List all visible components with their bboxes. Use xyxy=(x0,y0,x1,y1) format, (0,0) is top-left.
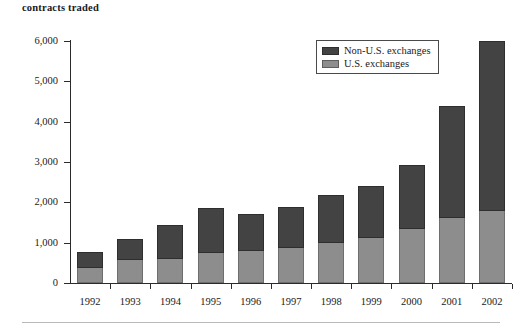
chart-legend: Non-U.S. exchanges U.S. exchanges xyxy=(316,40,439,74)
bar-segment-us-exchanges xyxy=(198,253,224,283)
y-axis-tick-label: 6,000 xyxy=(2,36,58,46)
x-axis-tick-label-1996: 1996 xyxy=(228,296,274,307)
bar-stack-1998 xyxy=(318,195,344,283)
x-axis-tick-label-1995: 1995 xyxy=(188,296,234,307)
x-axis-tick-label-2001: 2001 xyxy=(429,296,475,307)
y-axis-tick-label: 4,000 xyxy=(2,117,58,127)
bar-stack-2002 xyxy=(479,41,505,283)
bar-segment-non-us-exchanges xyxy=(278,207,304,248)
bar-segment-us-exchanges xyxy=(77,268,103,283)
x-axis-tick xyxy=(311,284,312,289)
bar-stack-1999 xyxy=(358,186,384,283)
bar-stack-1994 xyxy=(157,225,183,283)
bar-stack-1996 xyxy=(238,214,264,283)
bar-segment-non-us-exchanges xyxy=(399,165,425,229)
x-axis-tick xyxy=(351,284,352,289)
bar-stack-1995 xyxy=(198,208,224,283)
footer-divider xyxy=(22,322,500,323)
y-axis-tick-label: 5,000 xyxy=(2,76,58,86)
bar-segment-us-exchanges xyxy=(157,259,183,283)
legend-label-us-exchanges: U.S. exchanges xyxy=(344,58,409,69)
y-axis-tick-label: 0 xyxy=(2,278,58,288)
bar-segment-us-exchanges xyxy=(399,229,425,283)
bar-segment-us-exchanges xyxy=(318,243,344,283)
x-axis-tick-label-1992: 1992 xyxy=(67,296,113,307)
bar-segment-us-exchanges xyxy=(358,238,384,283)
legend-item-us-exchanges: U.S. exchanges xyxy=(322,57,431,70)
x-axis-line xyxy=(70,283,512,284)
bar-segment-us-exchanges xyxy=(479,211,505,283)
x-axis-tick xyxy=(472,284,473,289)
x-axis-tick-label-2002: 2002 xyxy=(469,296,515,307)
bar-segment-us-exchanges xyxy=(439,218,465,283)
bar-stack-1992 xyxy=(77,252,103,283)
x-axis-tick xyxy=(512,284,513,289)
y-axis-tick xyxy=(64,283,71,284)
bar-segment-non-us-exchanges xyxy=(157,225,183,258)
bar-segment-non-us-exchanges xyxy=(318,195,344,243)
x-axis-tick xyxy=(110,284,111,289)
x-axis-tick xyxy=(150,284,151,289)
bar-segment-non-us-exchanges xyxy=(479,41,505,211)
x-axis-tick xyxy=(191,284,192,289)
x-axis-tick xyxy=(391,284,392,289)
x-axis-tick-label-1997: 1997 xyxy=(268,296,314,307)
x-axis-tick-label-1993: 1993 xyxy=(107,296,153,307)
bar-segment-us-exchanges xyxy=(278,248,304,283)
x-axis-tick-label-1999: 1999 xyxy=(348,296,394,307)
bar-segment-us-exchanges xyxy=(117,260,143,283)
bar-segment-non-us-exchanges xyxy=(238,214,264,251)
x-axis-tick xyxy=(231,284,232,289)
bar-stack-1997 xyxy=(278,207,304,283)
legend-label-non-us-exchanges: Non-U.S. exchanges xyxy=(344,45,431,56)
bar-segment-non-us-exchanges xyxy=(358,186,384,238)
x-axis-tick xyxy=(271,284,272,289)
legend-item-non-us-exchanges: Non-U.S. exchanges xyxy=(322,44,431,57)
y-axis-tick-label: 2,000 xyxy=(2,197,58,207)
bar-stack-2001 xyxy=(439,106,465,283)
bar-stack-2000 xyxy=(399,165,425,283)
x-axis-tick-label-1998: 1998 xyxy=(308,296,354,307)
bar-segment-non-us-exchanges xyxy=(117,239,143,259)
light-gray-swatch-icon xyxy=(322,60,339,68)
chart-title: contracts traded xyxy=(22,2,99,13)
x-axis-tick-label-2000: 2000 xyxy=(389,296,435,307)
y-axis-tick-label: 1,000 xyxy=(2,238,58,248)
bar-segment-non-us-exchanges xyxy=(77,252,103,268)
bar-segment-non-us-exchanges xyxy=(198,208,224,252)
y-axis-tick-label: 3,000 xyxy=(2,157,58,167)
chart-figure: contracts traded 01,0002,0003,0004,0005,… xyxy=(0,0,524,329)
dark-gray-swatch-icon xyxy=(322,47,339,55)
x-axis-tick-label-1994: 1994 xyxy=(147,296,193,307)
bar-segment-non-us-exchanges xyxy=(439,106,465,218)
plot-area xyxy=(70,41,512,283)
bar-segment-us-exchanges xyxy=(238,251,264,283)
bar-stack-1993 xyxy=(117,239,143,283)
x-axis-tick xyxy=(432,284,433,289)
